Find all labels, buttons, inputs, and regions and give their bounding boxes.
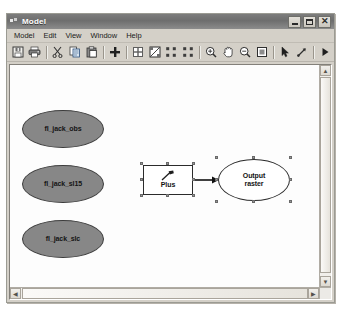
chevron-left-icon: ◀ bbox=[13, 291, 18, 297]
zoom-in-icon bbox=[205, 46, 217, 58]
node-label: fl_jack_obs bbox=[44, 125, 81, 133]
toolbar-separator-3 bbox=[126, 46, 128, 59]
copy-button[interactable] bbox=[67, 45, 83, 60]
node-label-line2: raster bbox=[245, 180, 264, 188]
save-icon bbox=[12, 46, 24, 58]
run-button[interactable] bbox=[317, 45, 333, 60]
add-data-button[interactable] bbox=[107, 45, 123, 60]
zoom-out-button[interactable] bbox=[237, 45, 253, 60]
toolbar-separator-2 bbox=[103, 46, 105, 59]
handle-nw[interactable] bbox=[215, 156, 218, 159]
model-elements-button[interactable] bbox=[180, 45, 196, 60]
horizontal-scroll-thumb[interactable] bbox=[22, 288, 308, 299]
menu-item-help[interactable]: Help bbox=[122, 30, 146, 42]
chevron-right-icon: ▶ bbox=[311, 291, 316, 297]
zoom-in-button[interactable] bbox=[203, 45, 219, 60]
node-label: fl_jack_sl15 bbox=[44, 180, 82, 188]
copy-icon bbox=[69, 46, 81, 58]
diagram-properties-icon bbox=[165, 46, 177, 58]
connect-icon bbox=[296, 46, 308, 58]
model-canvas-surface[interactable]: fl_jack_obs fl_jack_sl15 fl_jack_slc bbox=[10, 65, 319, 287]
hammer-icon bbox=[161, 170, 175, 181]
menu-item-model[interactable]: Model bbox=[10, 30, 39, 42]
maximize-icon bbox=[306, 19, 313, 25]
title-bar[interactable]: Model ✕ bbox=[7, 14, 334, 29]
model-element-plus-tool[interactable]: Plus bbox=[143, 165, 193, 195]
paste-button[interactable] bbox=[84, 45, 100, 60]
zoom-whole-page-button[interactable] bbox=[254, 45, 270, 60]
menu-item-window[interactable]: Window bbox=[87, 30, 123, 42]
pan-button[interactable] bbox=[220, 45, 236, 60]
menu-item-edit[interactable]: Edit bbox=[39, 30, 61, 42]
toolbar-separator-5 bbox=[273, 46, 275, 59]
model-canvas[interactable]: fl_jack_obs fl_jack_sl15 fl_jack_slc bbox=[9, 64, 332, 300]
vertical-scrollbar[interactable]: ▲ ▼ bbox=[319, 65, 331, 287]
run-icon bbox=[319, 46, 331, 58]
chevron-up-icon: ▲ bbox=[323, 68, 329, 74]
scroll-right-button[interactable]: ▶ bbox=[308, 288, 319, 299]
connect-button[interactable] bbox=[294, 45, 310, 60]
select-button[interactable] bbox=[277, 45, 293, 60]
toolbar-separator-6 bbox=[313, 46, 315, 59]
pan-icon bbox=[222, 46, 234, 58]
menu-bar: Model Edit View Window Help bbox=[7, 29, 334, 43]
zoom-out-icon bbox=[239, 46, 251, 58]
model-element-output-raster[interactable]: Output raster bbox=[218, 159, 290, 201]
model-element-fl-jack-slc[interactable]: fl_jack_slc bbox=[22, 220, 104, 258]
menu-item-view[interactable]: View bbox=[61, 30, 86, 42]
window-controls: ✕ bbox=[288, 16, 332, 28]
auto-layout-icon bbox=[132, 46, 144, 58]
maximize-button[interactable] bbox=[303, 16, 316, 28]
close-icon: ✕ bbox=[321, 17, 329, 26]
print-button[interactable] bbox=[27, 45, 43, 60]
print-icon bbox=[28, 46, 41, 58]
node-label: fl_jack_slc bbox=[46, 235, 80, 243]
model-element-fl-jack-sl15[interactable]: fl_jack_sl15 bbox=[22, 165, 104, 203]
handle-ne[interactable] bbox=[289, 156, 292, 159]
minimize-icon bbox=[292, 23, 298, 25]
node-label: Plus bbox=[161, 181, 175, 189]
node-label-line1: Output bbox=[243, 172, 265, 180]
toolbar-separator-1 bbox=[46, 46, 48, 59]
vertical-scroll-thumb[interactable] bbox=[320, 77, 331, 273]
scrollbar-corner bbox=[319, 287, 331, 299]
full-view-button[interactable] bbox=[147, 45, 163, 60]
diagram-properties-button[interactable] bbox=[164, 45, 180, 60]
model-elements-icon bbox=[182, 46, 194, 58]
full-view-icon bbox=[149, 46, 161, 58]
toolbar bbox=[7, 43, 334, 62]
paste-icon bbox=[86, 46, 98, 58]
chevron-down-icon: ▼ bbox=[323, 279, 329, 285]
cut-icon bbox=[52, 46, 63, 58]
window-title: Model bbox=[22, 17, 46, 26]
select-arrow-icon bbox=[279, 46, 291, 58]
cut-button[interactable] bbox=[50, 45, 66, 60]
zoom-whole-page-icon bbox=[256, 46, 268, 58]
handle-se[interactable] bbox=[289, 200, 292, 203]
toolbar-separator-4 bbox=[199, 46, 201, 59]
close-button[interactable]: ✕ bbox=[318, 16, 331, 28]
auto-layout-button[interactable] bbox=[130, 45, 146, 60]
save-button[interactable] bbox=[10, 45, 26, 60]
add-data-icon bbox=[109, 46, 121, 58]
minimize-button[interactable] bbox=[288, 16, 301, 28]
model-element-fl-jack-obs[interactable]: fl_jack_obs bbox=[22, 110, 104, 148]
horizontal-scrollbar[interactable]: ◀ ▶ bbox=[10, 287, 319, 299]
model-document-icon bbox=[10, 17, 19, 26]
scroll-up-button[interactable]: ▲ bbox=[320, 65, 331, 76]
scroll-left-button[interactable]: ◀ bbox=[10, 288, 21, 299]
scroll-down-button[interactable]: ▼ bbox=[320, 276, 331, 287]
handle-sw[interactable] bbox=[215, 200, 218, 203]
model-builder-window: Model ✕ Model Edit View Window Help bbox=[6, 13, 335, 303]
